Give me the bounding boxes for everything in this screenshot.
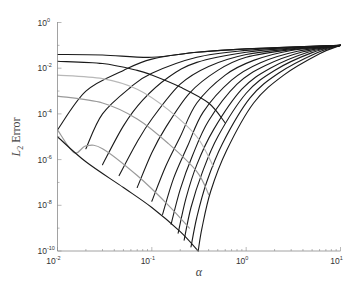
series-rising-7 <box>163 45 341 214</box>
series-rising-2 <box>86 45 341 148</box>
x-tick-label: 10-2 <box>46 255 60 266</box>
chart-svg: 10-210-1100101 10010-210-410-610-810-10 … <box>0 0 362 289</box>
x-tick-label: 100 <box>236 255 249 266</box>
series-rising-6 <box>152 45 341 201</box>
plot-curves <box>58 45 341 251</box>
y-tick-label: 10-4 <box>38 108 52 119</box>
x-tick-label: 10-1 <box>141 255 155 266</box>
series-rising-12 <box>198 45 340 251</box>
series-lower-envelope <box>58 137 199 251</box>
y-ticks: 10010-210-410-610-810-10 <box>38 17 62 257</box>
series-rising-4 <box>119 45 340 175</box>
y-tick-label: 10-8 <box>38 199 52 210</box>
x-tick-label: 101 <box>330 255 343 266</box>
series-rising-10 <box>184 45 340 240</box>
y-tick-label: 10-10 <box>38 245 55 256</box>
y-tick-label: 10-2 <box>38 62 52 73</box>
y-tick-label: 10-6 <box>38 154 52 165</box>
series-descending-3 <box>58 75 214 166</box>
y-tick-label: 100 <box>38 17 51 28</box>
x-ticks: 10-210-1100101 <box>46 247 342 266</box>
y-axis-title-rest: Error <box>9 117 23 145</box>
x-axis-title: α <box>196 265 203 279</box>
series-rising-9 <box>178 45 340 233</box>
y-axis-title: L2 Error <box>9 117 25 157</box>
